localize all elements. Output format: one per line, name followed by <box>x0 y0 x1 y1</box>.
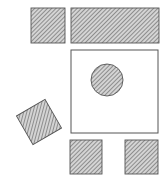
bottom-right-square <box>125 140 158 174</box>
center-circle <box>91 64 123 96</box>
rotated-square <box>16 99 61 144</box>
shapes-layer <box>16 8 159 174</box>
top-wide-rect <box>71 8 159 43</box>
bottom-left-square <box>70 140 102 174</box>
top-left-square <box>31 8 65 43</box>
shape-diagram <box>0 0 166 188</box>
